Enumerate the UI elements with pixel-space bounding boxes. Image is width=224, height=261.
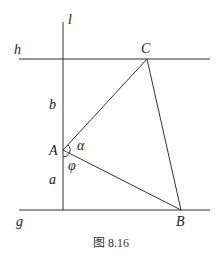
geometry-figure: l h g C A B b a α φ 图 8.16 <box>0 0 224 261</box>
segment-AC <box>63 59 147 150</box>
segment-CB <box>147 59 181 210</box>
label-B: B <box>176 214 185 229</box>
figure-caption: 图 8.16 <box>93 236 129 250</box>
label-C: C <box>141 41 151 56</box>
angle-arc-alpha <box>68 145 70 153</box>
label-A: A <box>48 143 58 158</box>
segment-AB <box>63 150 181 210</box>
label-alpha: α <box>77 138 85 153</box>
label-g: g <box>16 214 23 229</box>
label-phi: φ <box>68 158 76 173</box>
label-b: b <box>49 97 56 112</box>
label-a: a <box>49 172 56 187</box>
label-h: h <box>14 42 21 57</box>
label-l: l <box>68 12 72 27</box>
angle-arc-phi <box>63 153 69 157</box>
